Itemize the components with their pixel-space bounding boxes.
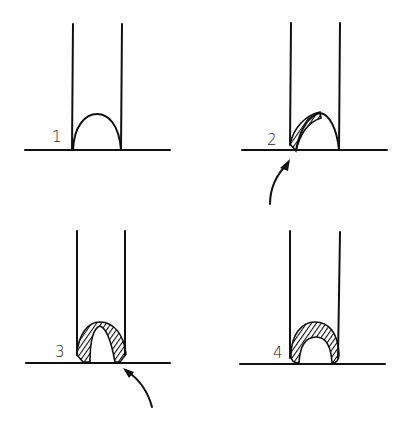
right-wall (338, 232, 340, 358)
weld-bead-complete (291, 322, 339, 363)
step-label: 3 (55, 343, 65, 361)
arrow-shaft (127, 371, 152, 407)
step-label: 2 (267, 131, 277, 149)
step-label: 4 (273, 344, 283, 362)
panel-3: 3 (26, 231, 170, 407)
weld-bead (77, 322, 126, 362)
arch (73, 114, 121, 150)
panel-4: 4 (240, 231, 385, 364)
arrow-head-icon (123, 368, 134, 378)
panel-1: 1 (25, 24, 170, 150)
panel-2: 2 (242, 23, 387, 204)
left-wall (72, 24, 73, 150)
right-wall (121, 24, 122, 150)
diagram-canvas: 1 2 3 4 (0, 0, 419, 432)
right-wall (339, 23, 340, 150)
weld-bead-left (290, 112, 321, 151)
step-label: 1 (52, 128, 62, 146)
left-wall (290, 23, 291, 145)
